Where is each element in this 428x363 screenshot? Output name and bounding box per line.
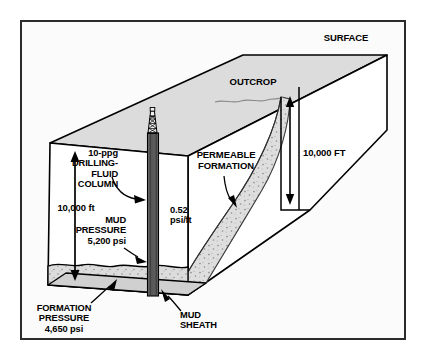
label-outcrop: OUTCROP	[218, 77, 288, 88]
formation-sediment-layer	[48, 264, 206, 295]
label-fluid-column: 10-ppg DRILLING- FLUID COLUMN	[56, 148, 118, 190]
label-permeable-formation: PERMEABLE FORMATION	[186, 150, 266, 171]
label-depth-left: 10,000 ft	[44, 203, 108, 214]
label-gradient: 0.52 psi/ft	[170, 205, 192, 226]
label-surface: SURFACE	[306, 33, 386, 44]
label-mud-sheath: MUD SHEATH	[180, 310, 217, 331]
drilling-fluid-column	[148, 133, 159, 296]
diagram-stage: SURFACE OUTCROP PERMEABLE FORMATION 10,0…	[0, 0, 428, 363]
label-formation-pressure: FORMATION PRESSURE 4,650 psi	[26, 303, 102, 334]
label-mud-pressure: MUD PRESSURE 5,200 psi	[58, 215, 126, 246]
label-depth-right: 10,000 FT	[303, 148, 345, 159]
